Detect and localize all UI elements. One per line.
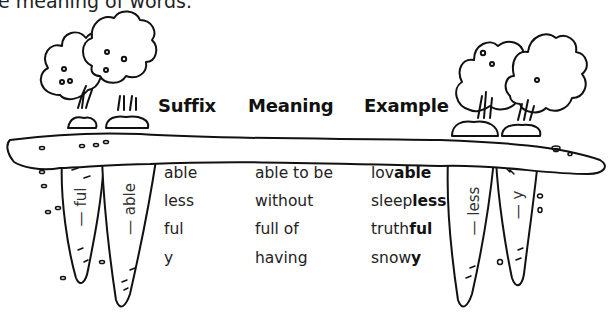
example-suffix: able [394,164,431,182]
example-suffix: y [411,249,421,267]
example-cell: sleepless [371,192,447,210]
suffix-cell: able [164,164,197,182]
carrot-label-y: — y [509,185,527,225]
header-suffix: Suffix [158,95,216,116]
example-root: snow [371,249,411,267]
carrot-illustration [0,0,616,316]
left-leaves-icon [41,11,156,128]
meaning-cell: without [255,192,313,210]
example-cell: lovable [371,164,431,182]
example-root: sleep [371,192,412,210]
example-cell: snowy [371,249,421,267]
suffix-cell: y [164,249,173,267]
example-cell: truthful [371,220,432,238]
meaning-cell: full of [255,220,299,238]
example-suffix: ful [409,220,432,238]
suffix-cell: less [164,192,194,210]
carrot-label-able: — able [121,179,139,239]
example-root: truth [371,220,409,238]
suffix-cell: ful [164,220,184,238]
header-meaning: Meaning [248,95,334,116]
example-root: lov [371,164,394,182]
right-leaves-icon [452,34,587,136]
example-suffix: less [412,192,446,210]
meaning-cell: having [255,249,307,267]
carrot-label-less: — less [465,181,483,241]
right-carrots-icon [448,160,538,307]
carrot-label-ful: — ful [72,182,90,232]
header-example: Example [364,95,449,116]
meaning-cell: able to be [255,164,333,182]
